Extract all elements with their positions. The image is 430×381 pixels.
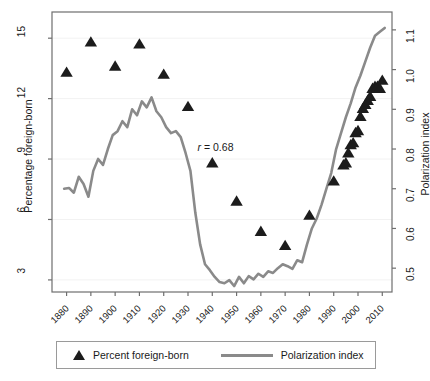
triangle-marker: [109, 60, 121, 70]
right-tick-label: 1.1: [403, 17, 419, 43]
right-tick-label: 0.7: [403, 176, 419, 202]
right-tick-label: 0.6: [403, 215, 419, 241]
left-tick-label: 15: [15, 26, 29, 50]
right-tick-label: 0.8: [403, 136, 419, 162]
chart-figure: Percentage foreign-born Polarization ind…: [0, 0, 430, 381]
triangle-marker: [255, 226, 267, 236]
triangle-marker: [60, 66, 72, 76]
triangle-marker: [182, 101, 194, 111]
triangle-marker: [279, 240, 291, 250]
right-tick-label: 0.9: [403, 96, 419, 122]
triangle-marker-icon: [73, 350, 85, 360]
triangle-marker: [158, 68, 170, 78]
triangle-marker: [303, 209, 315, 219]
left-tick-label: 12: [15, 87, 29, 111]
plot-frame: [52, 12, 392, 292]
triangle-marker: [376, 74, 388, 84]
triangle-marker: [133, 38, 145, 48]
chart-legend: Percent foreign-born Polarization index: [56, 341, 376, 369]
triangle-marker: [352, 125, 364, 135]
line-marker-icon: [221, 354, 273, 357]
left-tick-label: 9: [15, 147, 29, 171]
left-tick-label: 3: [15, 268, 29, 292]
legend-label-polarization: Polarization index: [281, 349, 364, 361]
legend-item-foreign-born: Percent foreign-born: [73, 349, 189, 361]
triangle-marker: [347, 137, 359, 147]
legend-item-polarization: Polarization index: [221, 349, 364, 361]
left-tick-label: 6: [15, 207, 29, 231]
triangle-marker: [230, 195, 242, 205]
right-tick-label: 1.0: [403, 57, 419, 83]
legend-label-foreign-born: Percent foreign-born: [93, 349, 189, 361]
right-tick-label: 0.5: [403, 255, 419, 281]
